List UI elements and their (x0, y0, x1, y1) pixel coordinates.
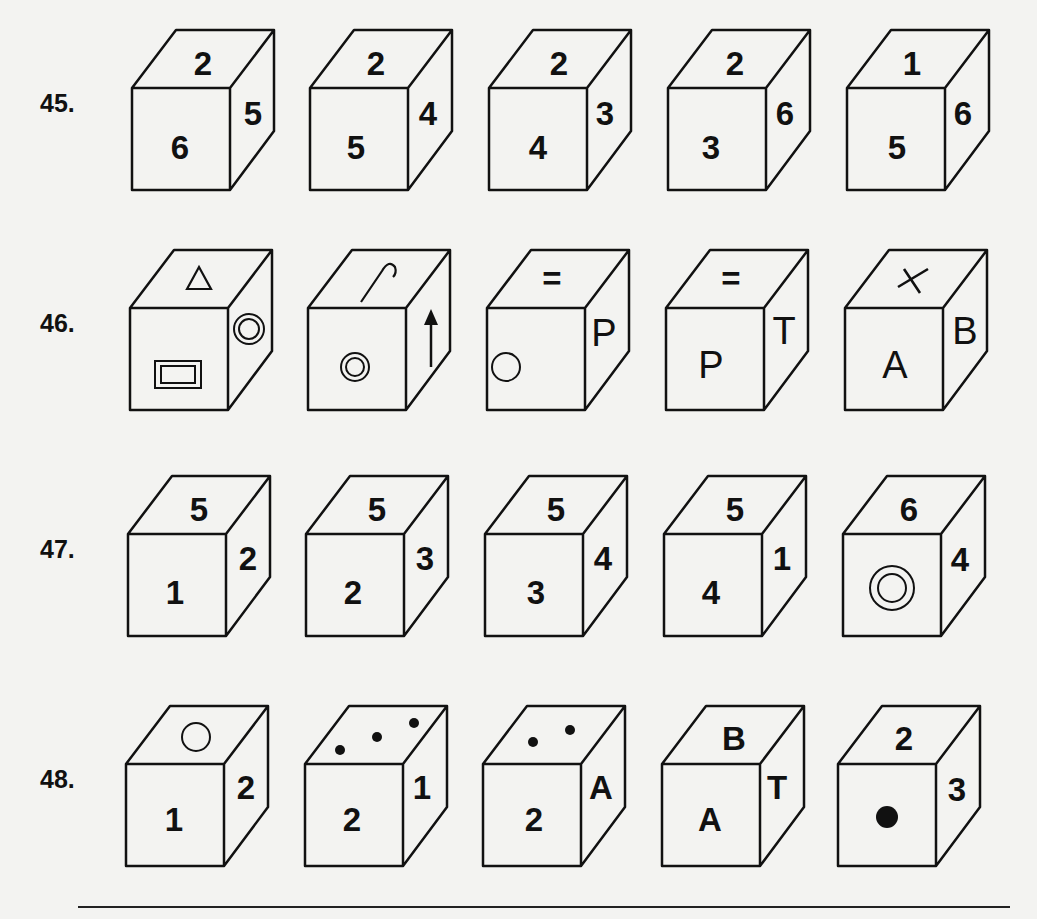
front-face-label: 2 (344, 576, 362, 609)
cube-45-3: 2 4 3 (488, 29, 638, 194)
cube-46-3: = P (486, 249, 636, 414)
right-face-label: B (952, 312, 977, 350)
x-mark-icon (898, 269, 928, 293)
cube-48-2: 2 1 (304, 705, 454, 870)
front-face-label: 4 (702, 576, 720, 609)
right-face-label: 1 (773, 542, 791, 575)
cube-outline (129, 249, 274, 411)
top-face-label: 6 (900, 493, 918, 526)
three-dots-icon (335, 718, 419, 755)
front-face-label: P (698, 346, 723, 384)
right-face-label: 3 (596, 97, 614, 130)
cube-46-2 (307, 249, 457, 414)
top-face-label: = (721, 262, 740, 295)
right-face-label: A (589, 771, 613, 804)
cube-47-5: 6 4 (842, 475, 992, 640)
cube-46-4: = P T (665, 249, 815, 414)
front-face-label: 1 (166, 576, 184, 609)
cube-46-1 (129, 249, 279, 414)
question-48: 48. 1 2 2 1 2 A B A T 2 3 (0, 705, 1037, 905)
two-dots-icon (528, 725, 575, 747)
cube-48-1: 1 2 (125, 705, 275, 870)
right-face-label: 6 (776, 97, 794, 130)
cube-48-4: B A T (661, 705, 811, 870)
top-face-label: 5 (368, 493, 386, 526)
question-46: 46. = P = P T A (0, 249, 1037, 449)
top-face-label: 5 (547, 493, 565, 526)
question-number: 45. (40, 89, 75, 118)
top-face-label: 2 (726, 47, 744, 80)
cube-47-1: 5 1 2 (127, 475, 277, 640)
right-face-label: P (591, 314, 616, 352)
front-face-label: 6 (171, 131, 189, 164)
right-face-label: 6 (954, 97, 972, 130)
question-45: 45. 2 6 5 2 5 4 2 4 3 2 3 6 1 5 6 (0, 29, 1037, 229)
triangle-icon (187, 267, 211, 289)
right-face-label: 3 (416, 542, 434, 575)
top-face-label: 5 (726, 493, 744, 526)
top-face-label: 5 (190, 493, 208, 526)
question-number: 48. (40, 765, 75, 794)
front-face-label: 2 (343, 803, 361, 836)
front-face-label: A (698, 803, 722, 836)
right-face-label: 2 (237, 771, 255, 804)
cube-48-5: 2 3 (837, 705, 987, 870)
top-face-label: 2 (895, 722, 913, 755)
front-face-label: 4 (529, 131, 547, 164)
bottom-divider (78, 906, 1010, 908)
cube-45-4: 2 3 6 (667, 29, 817, 194)
right-face-label: 1 (413, 771, 431, 804)
question-number: 47. (40, 535, 75, 564)
cube-47-2: 5 2 3 (305, 475, 455, 640)
hook-icon (361, 264, 396, 302)
right-face-label: 3 (948, 773, 966, 806)
front-face-label: 1 (165, 803, 183, 836)
top-face-label: = (542, 262, 561, 295)
right-face-label: T (767, 771, 787, 804)
cube-45-5: 1 5 6 (846, 29, 996, 194)
circle-outline-icon (182, 723, 210, 751)
front-face-label: 3 (527, 576, 545, 609)
right-face-label: 4 (594, 542, 612, 575)
top-face-label: 1 (903, 47, 921, 80)
cube-outline (307, 249, 452, 411)
top-face-label: 2 (550, 47, 568, 80)
cube-46-5: A B (844, 249, 994, 414)
double-circle-icon (870, 566, 914, 610)
cube-45-2: 2 5 4 (309, 29, 459, 194)
front-face-label: 2 (525, 803, 543, 836)
cube-47-4: 5 4 1 (663, 475, 813, 640)
circle-outline-icon (492, 353, 520, 381)
question-47: 47. 5 1 2 5 2 3 5 3 4 5 4 1 6 4 (0, 475, 1037, 675)
filled-dot-icon (876, 806, 898, 828)
top-face-label: 2 (367, 47, 385, 80)
cube-47-3: 5 3 4 (484, 475, 634, 640)
right-face-label: 4 (419, 97, 437, 130)
front-face-label: A (882, 346, 907, 384)
cube-48-3: 2 A (482, 705, 632, 870)
front-face-label: 5 (347, 131, 365, 164)
right-face-label: 4 (951, 543, 969, 576)
right-face-label: 5 (244, 97, 262, 130)
top-face-label: 2 (194, 47, 212, 80)
front-face-label: 3 (702, 131, 720, 164)
right-face-label: 2 (239, 542, 257, 575)
top-face-label: B (722, 722, 746, 755)
question-number: 46. (40, 309, 75, 338)
right-face-label: T (772, 312, 795, 350)
cube-45-1: 2 6 5 (131, 29, 281, 194)
front-face-label: 5 (888, 131, 906, 164)
